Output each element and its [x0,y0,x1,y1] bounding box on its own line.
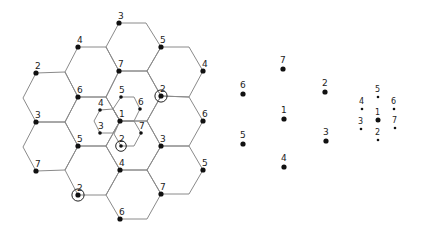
node-dot-icon [75,94,80,99]
node-label: 4 [202,59,208,69]
node-label: 5 [240,130,246,140]
node-dot-icon [75,44,80,49]
small-pattern-node: 6 [391,97,396,110]
node-dot-icon [75,192,80,197]
cell-node: 2 [155,84,167,102]
mid-cluster-pattern: 7621534 [240,55,329,170]
small-pattern-node: 5 [375,85,380,98]
hex-grid-edges [23,23,203,219]
node-label: 5 [202,158,208,168]
mid-pattern-node: 7 [280,55,286,72]
node-dot-icon [200,118,205,123]
node-label: 6 [138,97,144,107]
node-dot-icon [158,143,163,148]
node-label: 5 [77,134,83,144]
small-pattern-node: 1 [375,108,381,123]
node-dot-icon [98,108,102,112]
cell-node: 2 [33,61,40,76]
node-label: 7 [392,116,397,125]
node-dot-icon [33,119,38,124]
small-pattern-node: 4 [359,97,364,110]
mid-pattern-node: 6 [240,80,246,97]
node-dot-icon [394,127,397,130]
mid-pattern-node: 4 [281,153,287,170]
node-label: 2 [35,61,41,71]
node-dot-icon [322,89,327,94]
node-dot-icon [281,116,286,121]
hexagon-cell [65,146,120,195]
hexagon-cell [106,170,161,219]
node-dot-icon [116,20,121,25]
node-label: 7 [139,121,145,131]
node-dot-icon [119,144,123,148]
cell-node: 6 [200,109,208,124]
node-label: 1 [281,105,287,115]
node-dot-icon [139,131,143,135]
node-dot-icon [75,143,80,148]
hexagon-cell [65,97,120,146]
node-label: 1 [119,109,125,119]
small-cell-node: 2 [116,134,127,151]
hexagon-cell [23,122,78,171]
node-label: 6 [77,85,83,95]
node-label: 2 [322,78,328,88]
hex-cell-diagram: 3544726236153754276 564372 7621534 54613… [0,0,423,243]
node-dot-icon [240,91,245,96]
node-label: 6 [202,109,208,119]
node-label: 6 [391,97,396,106]
mid-pattern-node: 3 [323,127,329,144]
node-label: 3 [118,11,124,21]
hex-grid-nodes: 3544726236153754276 [33,11,208,222]
small-cell-node: 7 [139,121,145,135]
small-pattern-node: 2 [375,128,380,141]
cell-node: 4 [200,59,208,74]
mid-pattern-node: 2 [322,78,328,95]
node-dot-icon [393,108,396,111]
node-dot-icon [323,138,328,143]
node-dot-icon [117,167,122,172]
node-dot-icon [377,96,380,99]
node-dot-icon [200,167,205,172]
hexagon-cell [106,23,161,71]
node-label: 4 [281,153,287,163]
node-label: 3 [35,110,41,120]
node-label: 3 [323,127,329,137]
cell-node: 7 [33,159,40,174]
node-dot-icon [158,93,163,98]
node-label: 3 [160,134,166,144]
node-label: 3 [358,117,363,126]
mid-pattern-node: 5 [240,130,246,147]
mid-pattern-node: 1 [281,105,287,122]
hexagon-cell [147,146,203,194]
small-pattern-node: 7 [392,116,397,129]
hexagon-cell [106,71,161,121]
node-dot-icon [116,68,121,73]
node-label: 6 [119,207,125,217]
node-label: 7 [160,182,166,192]
node-dot-icon [117,118,122,123]
node-label: 7 [35,159,41,169]
node-label: 3 [98,121,104,131]
node-label: 1 [375,108,380,117]
node-dot-icon [377,139,380,142]
node-label: 4 [359,97,364,106]
small-cell-node: 6 [138,97,144,111]
small-cluster-pattern: 5461372 [358,85,397,141]
node-dot-icon [138,107,142,111]
node-label: 2 [77,183,83,193]
node-dot-icon [33,168,38,173]
node-dot-icon [119,95,123,99]
node-label: 2 [119,134,125,144]
node-dot-icon [281,164,286,169]
hexagon-cell [147,96,203,146]
node-dot-icon [240,141,245,146]
node-dot-icon [360,128,363,131]
node-dot-icon [98,131,102,135]
node-dot-icon [376,118,381,123]
node-label: 2 [375,128,380,137]
hexagon-cell [65,47,119,97]
node-label: 7 [118,59,124,69]
node-label: 5 [119,85,125,95]
small-hexagon-cell [113,97,140,121]
node-label: 6 [240,80,246,90]
